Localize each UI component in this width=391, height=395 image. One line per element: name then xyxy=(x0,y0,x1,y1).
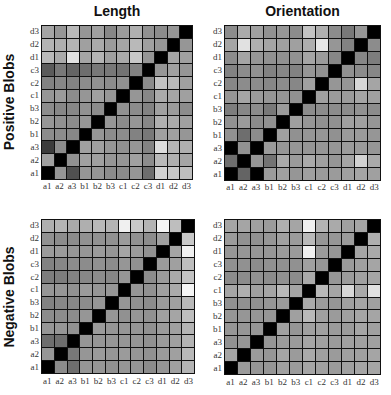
x-axis-labels: a1a2a3b1b2b3c1c2c3d1d2d3 xyxy=(224,183,381,195)
heatmap-cell xyxy=(342,323,354,335)
heatmap-cell xyxy=(329,259,341,271)
heatmap-cell xyxy=(105,167,117,179)
heatmap-cell xyxy=(144,246,156,258)
heatmap-cell xyxy=(105,116,117,128)
heatmap-cell xyxy=(55,271,67,283)
heatmap-cell xyxy=(329,52,341,64)
heatmap-cell xyxy=(55,284,67,296)
heatmap-cell xyxy=(80,64,92,76)
heatmap-cell xyxy=(368,39,380,51)
heatmap-cell xyxy=(55,52,67,64)
heatmap-cell xyxy=(157,310,169,322)
heatmap-cell xyxy=(251,168,263,180)
heatmap-cell xyxy=(131,246,143,258)
heatmap-cell xyxy=(144,297,156,309)
heatmap-cell xyxy=(182,220,194,232)
y-tick-label: d3 xyxy=(22,27,39,36)
y-axis-labels: d3d2d1c3c2c1b3b2b1a3a2a1 xyxy=(205,219,222,375)
heatmap-cell xyxy=(316,362,328,374)
heatmap-cell xyxy=(155,64,167,76)
heatmap-cell xyxy=(67,39,79,51)
heatmap-cell xyxy=(144,284,156,296)
heatmap-cell xyxy=(80,246,92,258)
y-tick-label: d1 xyxy=(205,53,222,62)
heatmap-cell xyxy=(342,259,354,271)
heatmap-cell xyxy=(93,284,105,296)
heatmap-cell xyxy=(67,154,79,166)
heatmap-cell xyxy=(251,129,263,141)
heatmap-cell xyxy=(225,349,237,361)
heatmap-cell xyxy=(225,155,237,167)
heatmap-cell xyxy=(80,258,92,270)
y-tick-label: c2 xyxy=(22,79,39,88)
heatmap-cell xyxy=(264,362,276,374)
heatmap-cell xyxy=(251,285,263,297)
heatmap-cell xyxy=(55,323,67,335)
heatmap-cell xyxy=(155,77,167,89)
heatmap-cell xyxy=(105,103,117,115)
heatmap-cell xyxy=(251,104,263,116)
heatmap-cell xyxy=(329,349,341,361)
heatmap-cell xyxy=(92,103,104,115)
heatmap-cell xyxy=(182,284,194,296)
heatmap-cell xyxy=(119,361,131,373)
heatmap-cell xyxy=(238,78,250,90)
y-tick-label: b1 xyxy=(22,324,39,333)
heatmap-cell xyxy=(143,90,155,102)
heatmap-cell xyxy=(277,272,289,284)
heatmap-cell xyxy=(329,272,341,284)
heatmap-cell xyxy=(170,271,182,283)
heatmap-cell xyxy=(316,116,328,128)
heatmap-grid xyxy=(224,25,381,181)
heatmap-cell xyxy=(251,323,263,335)
heatmap-cell xyxy=(182,258,194,270)
heatmap-cell xyxy=(368,362,380,374)
heatmap-cell xyxy=(251,78,263,90)
heatmap-cell xyxy=(264,39,276,51)
heatmap-cell xyxy=(55,348,67,360)
heatmap-cell xyxy=(303,233,315,245)
heatmap-cell xyxy=(80,335,92,347)
heatmap-cell xyxy=(238,336,250,348)
heatmap-cell xyxy=(131,361,143,373)
heatmap-cell xyxy=(238,168,250,180)
heatmap-cell xyxy=(225,129,237,141)
heatmap-cell xyxy=(251,26,263,38)
heatmap-cell xyxy=(130,103,142,115)
heatmap-cell xyxy=(368,285,380,297)
heatmap-cell xyxy=(368,104,380,116)
heatmap-cell xyxy=(238,285,250,297)
heatmap-cell xyxy=(168,129,180,141)
heatmap-cell xyxy=(264,310,276,322)
heatmap-cell xyxy=(355,246,367,258)
y-tick-label: d3 xyxy=(22,221,39,230)
heatmap-cell xyxy=(355,116,367,128)
heatmap-cell xyxy=(329,220,341,232)
heatmap-cell xyxy=(42,284,54,296)
heatmap-cell xyxy=(68,220,80,232)
heatmap-cell xyxy=(55,64,67,76)
heatmap-cell xyxy=(67,90,79,102)
heatmap-cell xyxy=(106,297,118,309)
heatmap-cell xyxy=(251,336,263,348)
heatmap-cell xyxy=(264,129,276,141)
heatmap-cell xyxy=(355,52,367,64)
heatmap-cell xyxy=(251,142,263,154)
heatmap-cell xyxy=(42,129,54,141)
y-tick-label: a1 xyxy=(22,169,39,178)
heatmap-cell xyxy=(251,233,263,245)
heatmap-cell xyxy=(342,65,354,77)
heatmap-cell xyxy=(251,65,263,77)
heatmap-cell xyxy=(155,154,167,166)
heatmap-cell xyxy=(180,116,192,128)
heatmap-cell xyxy=(170,233,182,245)
heatmap-cell xyxy=(290,142,302,154)
heatmap-cell xyxy=(170,323,182,335)
heatmap-cell xyxy=(143,141,155,153)
x-tick-label: c2 xyxy=(317,183,326,195)
heatmap-cell xyxy=(42,361,54,373)
heatmap-cell xyxy=(155,141,167,153)
heatmap-cell xyxy=(42,154,54,166)
heatmap-cell xyxy=(225,78,237,90)
x-tick-label: c1 xyxy=(120,377,129,389)
